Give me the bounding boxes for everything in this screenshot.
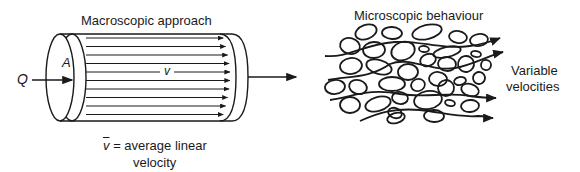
soil-grain [419, 46, 429, 53]
soil-grain [340, 97, 360, 113]
soil-grain [382, 26, 403, 39]
soil-grain [398, 64, 418, 80]
soil-grain [324, 79, 345, 95]
velocity-legend-line2: velocity [133, 155, 176, 170]
cylinder-right-inner [220, 34, 236, 121]
soil-grain [472, 71, 486, 85]
cylinder-body [72, 34, 232, 121]
cylinder-right-band [232, 34, 248, 121]
soil-grain [471, 50, 482, 58]
velocity-streamlines [86, 38, 230, 115]
soil-grain [353, 22, 378, 43]
microscopic-title: Microscopic behaviour [354, 8, 483, 23]
variable-label-line2: velocities [506, 79, 559, 94]
soil-grain [480, 59, 492, 71]
macroscopic-title: Macroscopic approach [81, 13, 212, 28]
cylinder-left-face [46, 34, 74, 121]
soil-grain [457, 55, 476, 74]
variable-label-line1: Variable [511, 63, 558, 78]
soil-grain [413, 89, 444, 112]
soil-grain [339, 57, 363, 76]
legend-text: = average linear [113, 138, 207, 153]
soil-grain [448, 30, 468, 45]
soil-grain [444, 99, 455, 107]
soil-grain [411, 22, 443, 43]
flow-symbol-q: Q [17, 72, 28, 87]
velocity-symbol: v [160, 64, 174, 79]
legend-symbol: v [103, 138, 110, 153]
area-symbol-a: A [62, 55, 71, 70]
soil-grain [461, 99, 480, 112]
cylinder [46, 34, 248, 121]
soil-grain [379, 77, 405, 91]
velocity-legend: v = average linear [103, 138, 207, 153]
